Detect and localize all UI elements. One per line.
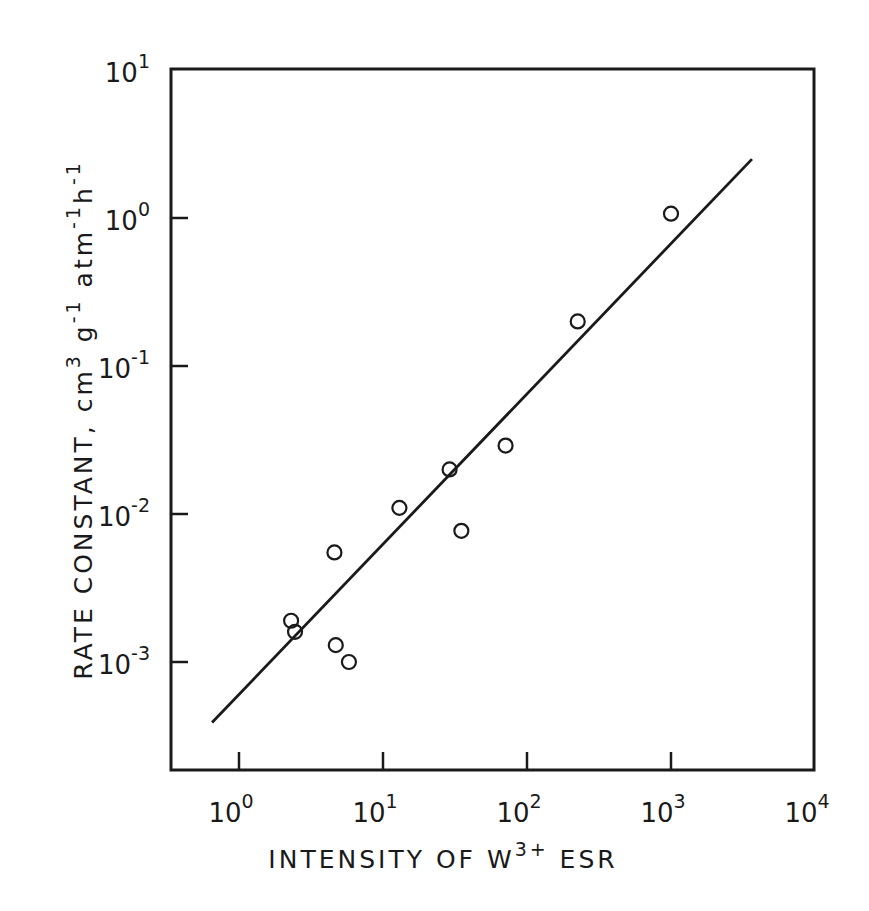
data-point-marker [454,524,468,538]
y-axis-ticks: 10110010-110-210-3 [98,50,188,680]
data-point-marker [329,638,343,652]
data-point-marker [392,501,406,515]
data-point-marker [571,314,585,328]
x-tick-label: 104 [784,790,829,828]
x-tick-label: 102 [496,790,541,828]
data-points [284,207,678,669]
y-tick-label: 10-3 [98,642,150,680]
y-tick-label: 10-2 [98,494,150,532]
data-point-marker [342,655,356,669]
y-axis-label: RATE CONSTANT, cm3 g-1 atm-1h-1 [62,160,98,680]
y-tick-label: 101 [105,50,150,88]
x-axis-label: INTENSITY OF W3+ ESR [268,838,617,874]
y-tick-label: 10-1 [98,346,150,384]
x-tick-label: 101 [352,790,397,828]
data-point-marker [327,545,341,559]
data-point-marker [664,207,678,221]
x-tick-label: 103 [640,790,685,828]
data-point-marker [499,439,513,453]
x-tick-label: 100 [208,790,253,828]
x-axis-ticks: 100101102103104 [208,752,829,828]
scatter-chart: 100101102103104 10110010-110-210-3 INTEN… [0,0,869,911]
y-tick-label: 100 [105,198,150,236]
